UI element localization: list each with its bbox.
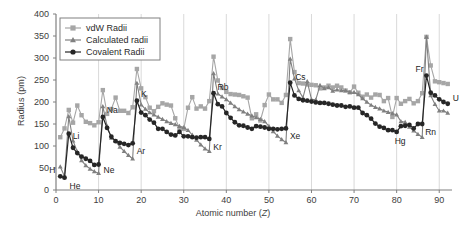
svg-text:10: 10 xyxy=(94,195,104,205)
svg-text:U: U xyxy=(453,93,459,103)
svg-text:Fr: Fr xyxy=(415,64,423,74)
svg-text:Covalent Radii: Covalent Radii xyxy=(86,47,145,57)
svg-text:K: K xyxy=(141,89,147,99)
svg-text:70: 70 xyxy=(349,195,359,205)
svg-text:80: 80 xyxy=(392,195,402,205)
svg-text:30: 30 xyxy=(179,195,189,205)
svg-text:300: 300 xyxy=(34,53,49,63)
series-covalent-radii xyxy=(58,73,450,180)
svg-text:0: 0 xyxy=(44,185,49,195)
svg-text:400: 400 xyxy=(34,9,49,19)
svg-text:Rn: Rn xyxy=(425,127,436,137)
svg-text:100: 100 xyxy=(34,141,49,151)
svg-text:150: 150 xyxy=(34,119,49,129)
svg-text:50: 50 xyxy=(264,195,274,205)
svg-text:Cs: Cs xyxy=(295,72,305,82)
svg-text:20: 20 xyxy=(136,195,146,205)
x-tick-labels: 0102030405060708090 xyxy=(53,190,444,205)
svg-text:250: 250 xyxy=(34,75,49,85)
svg-text:Hg: Hg xyxy=(395,136,406,146)
svg-text:Xe: Xe xyxy=(290,131,301,141)
svg-text:Na: Na xyxy=(107,105,118,115)
svg-text:Li: Li xyxy=(73,131,80,141)
atomic-radii-chart: 0102030405060708090 05010015020025030035… xyxy=(0,0,466,235)
svg-text:Rb: Rb xyxy=(218,82,229,92)
svg-text:200: 200 xyxy=(34,97,49,107)
svg-text:He: He xyxy=(70,181,81,191)
svg-text:50: 50 xyxy=(39,163,49,173)
svg-text:350: 350 xyxy=(34,31,49,41)
chart-plot-area: 0102030405060708090 05010015020025030035… xyxy=(0,0,466,235)
svg-text:Kr: Kr xyxy=(213,142,222,152)
svg-text:Calculated radii: Calculated radii xyxy=(86,35,148,45)
svg-text:60: 60 xyxy=(306,195,316,205)
svg-text:40: 40 xyxy=(221,195,231,205)
svg-text:vdW Radii: vdW Radii xyxy=(86,23,127,33)
y-axis-label: Radius (pm) xyxy=(16,56,26,146)
svg-text:0: 0 xyxy=(53,195,58,205)
chart-legend: vdW RadiiCalculated radiiCovalent Radii xyxy=(60,18,160,60)
svg-text:H: H xyxy=(49,165,55,175)
svg-text:Ar: Ar xyxy=(137,146,146,156)
svg-text:Ne: Ne xyxy=(104,165,115,175)
svg-text:90: 90 xyxy=(434,195,444,205)
x-axis-label: Atomic number (Z) xyxy=(0,208,466,218)
